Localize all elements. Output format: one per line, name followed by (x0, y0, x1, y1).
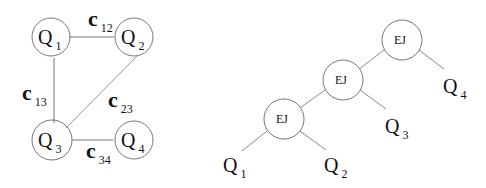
node-q4-label: Q4 (121, 130, 144, 150)
leaf-q2-label: Q2 (324, 155, 347, 175)
ej-top-label: EJ (394, 34, 406, 46)
tree-edge-top-q4 (419, 50, 444, 69)
leaf-q1-label: Q1 (223, 155, 246, 175)
leaf-q3-label: Q3 (385, 116, 408, 136)
edge-q3-q4-cost: c34 (86, 140, 111, 162)
edge-q2-q3-cost: c23 (108, 89, 133, 111)
ej-middle-label: EJ (335, 74, 347, 86)
node-q2-label: Q2 (121, 27, 144, 47)
tree-edge-bottom-q1 (242, 131, 267, 151)
tree-edge-bottom-q2 (300, 131, 326, 150)
node-q1-label: Q1 (38, 27, 61, 47)
tree-edge-middle-bottom (300, 90, 325, 108)
edge-q1-q2-cost: c12 (88, 8, 113, 30)
edge-q1-q3-cost: c13 (22, 82, 47, 104)
tree-edge-middle-q3 (360, 90, 386, 109)
node-q3-label: Q3 (38, 130, 61, 150)
tree-edge-top-middle (358, 50, 384, 70)
ej-bottom-label: EJ (276, 113, 288, 125)
leaf-q4-label: Q4 (443, 76, 466, 96)
